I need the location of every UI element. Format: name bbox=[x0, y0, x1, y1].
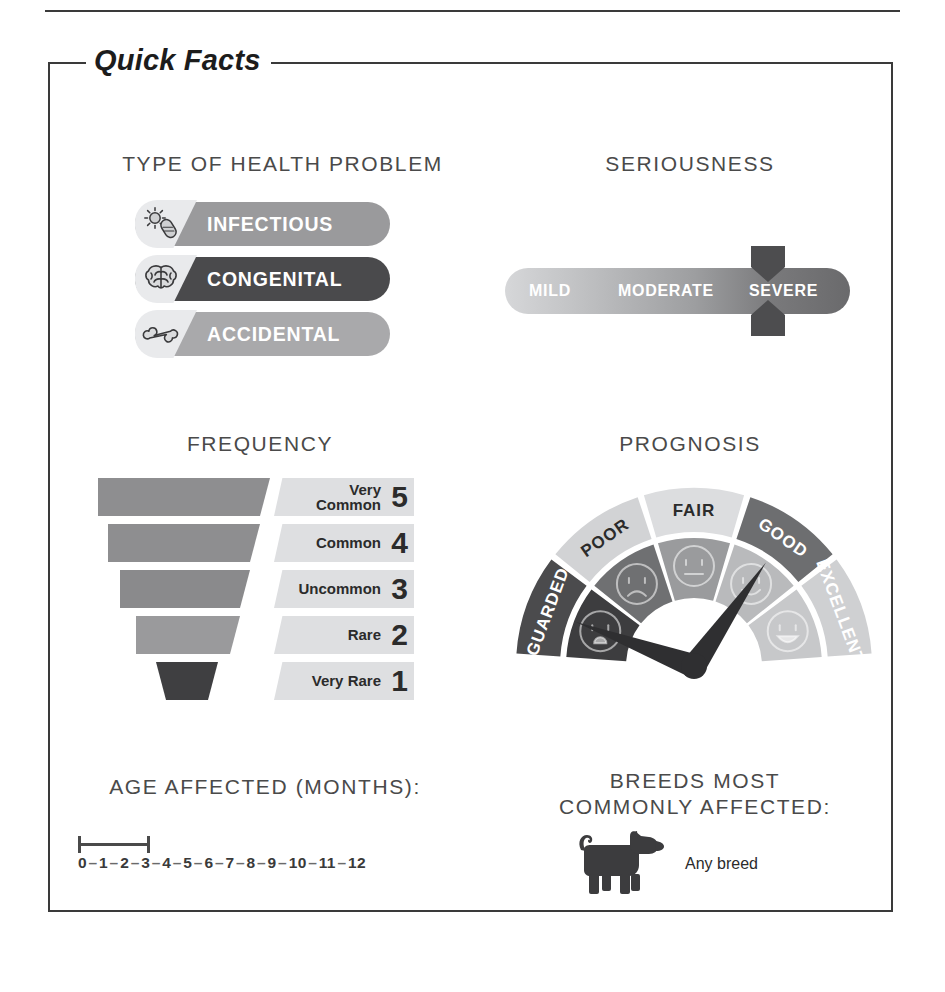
age-range-line bbox=[78, 843, 150, 846]
health-type-option-accidental[interactable]: ACCIDENTAL bbox=[135, 312, 390, 356]
frequency-label-strip: Common 4 bbox=[274, 524, 414, 562]
frequency-label-strip: Very Common 5 bbox=[274, 478, 414, 516]
frequency-name: Very Common bbox=[316, 482, 381, 513]
brain-icon bbox=[135, 255, 197, 303]
age-tick-labels: 0–1–2–3–4–5–6–7–8–9–10–11–12 bbox=[78, 854, 468, 872]
age-tick: 9 bbox=[268, 854, 277, 871]
breed-value: Any breed bbox=[685, 855, 758, 873]
frequency-name: Very Rare bbox=[312, 673, 381, 688]
frequency-value: 5 bbox=[388, 482, 408, 512]
breeds-affected-heading: BREEDS MOST COMMONLY AFFECTED: bbox=[545, 768, 845, 819]
frequency-row[interactable]: Rare 2 bbox=[98, 616, 443, 658]
frequency-name: Rare bbox=[348, 627, 381, 642]
health-type-option-congenital[interactable]: CONGENITAL bbox=[135, 257, 390, 301]
frequency-row[interactable]: Very Common 5 bbox=[98, 478, 443, 520]
age-tick: 0 bbox=[78, 854, 87, 871]
type-of-health-problem-heading: TYPE OF HEALTH PROBLEM bbox=[110, 152, 455, 176]
age-tick: 10 bbox=[289, 854, 307, 871]
age-range-bracket[interactable] bbox=[78, 836, 468, 852]
frequency-label-strip: Rare 2 bbox=[274, 616, 414, 654]
age-tick: 8 bbox=[247, 854, 256, 871]
funnel-tier bbox=[98, 478, 278, 516]
funnel-tier bbox=[120, 570, 300, 608]
gauge-hub bbox=[681, 653, 707, 679]
prognosis-gauge[interactable]: GUARDEDPOORFAIRGOODEXCELLENT bbox=[498, 470, 888, 720]
seriousness-level-severe: SEVERE bbox=[749, 282, 818, 300]
health-problem-type-list: INFECTIOUS CONGENITAL bbox=[135, 202, 390, 367]
frequency-funnel: Very Common 5 Common 4 Uncommon 3 Rare 2 bbox=[98, 478, 443, 708]
gauge-label: FAIR bbox=[673, 501, 716, 520]
frequency-name: Uncommon bbox=[299, 581, 382, 596]
age-tick: 5 bbox=[183, 854, 192, 871]
frequency-value: 3 bbox=[388, 574, 408, 604]
seriousness-heading: SERIOUSNESS bbox=[500, 152, 880, 176]
health-type-label: INFECTIOUS bbox=[207, 213, 333, 236]
age-affected-scale[interactable]: 0–1–2–3–4–5–6–7–8–9–10–11–12 bbox=[78, 836, 468, 872]
top-divider bbox=[45, 10, 900, 12]
age-range-end-cap bbox=[147, 836, 150, 853]
seriousness-slider[interactable]: MILD MODERATE SEVERE bbox=[505, 268, 865, 314]
frequency-label-strip: Very Rare 1 bbox=[274, 662, 414, 700]
health-type-label: CONGENITAL bbox=[207, 268, 342, 291]
health-type-option-infectious[interactable]: INFECTIOUS bbox=[135, 202, 390, 246]
age-tick: 2 bbox=[120, 854, 129, 871]
dog-icon bbox=[575, 828, 667, 900]
frequency-row[interactable]: Common 4 bbox=[98, 524, 443, 566]
age-tick: 3 bbox=[141, 854, 150, 871]
frequency-label-strip: Uncommon 3 bbox=[274, 570, 414, 608]
frequency-row[interactable]: Uncommon 3 bbox=[98, 570, 443, 612]
age-affected-heading: AGE AFFECTED (MONTHS): bbox=[65, 775, 465, 799]
frequency-value: 1 bbox=[388, 666, 408, 696]
seriousness-level-moderate: MODERATE bbox=[618, 282, 714, 300]
age-tick: 4 bbox=[162, 854, 171, 871]
bone-icon bbox=[135, 310, 197, 358]
age-tick: 1 bbox=[99, 854, 108, 871]
seriousness-level-mild: MILD bbox=[529, 282, 571, 300]
age-tick: 12 bbox=[348, 854, 366, 871]
page-title: Quick Facts bbox=[86, 44, 271, 77]
frequency-name: Common bbox=[316, 535, 381, 550]
prognosis-heading: PROGNOSIS bbox=[500, 432, 880, 456]
frequency-value: 2 bbox=[388, 620, 408, 650]
germ-icon bbox=[135, 200, 197, 248]
frequency-row-selected[interactable]: Very Rare 1 bbox=[98, 662, 443, 704]
age-tick: 11 bbox=[319, 854, 336, 871]
funnel-tier bbox=[108, 524, 288, 562]
health-type-label: ACCIDENTAL bbox=[207, 323, 340, 346]
frequency-value: 4 bbox=[388, 528, 408, 558]
frequency-heading: FREQUENCY bbox=[85, 432, 435, 456]
breed-entry: Any breed bbox=[575, 828, 865, 900]
